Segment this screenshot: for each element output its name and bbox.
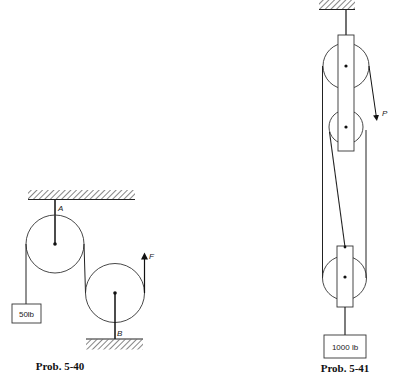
figure-prob-5-41: P 1000 lb Prob. 5-41 — [319, 0, 388, 374]
label-p: P — [382, 109, 388, 118]
weight-50lb-label: 50lb — [19, 310, 35, 319]
caption-prob-5-40: Prob. 5-40 — [36, 360, 85, 372]
caption-prob-5-41: Prob. 5-41 — [321, 362, 370, 374]
lower-pulley-axle — [343, 275, 346, 278]
figure-prob-5-40: A B F 50lb Prob. 5-40 — [12, 190, 155, 372]
ceiling-support — [28, 190, 135, 200]
floor-support — [86, 339, 143, 350]
upper-pulley-small-axle — [344, 125, 347, 128]
label-a: A — [57, 204, 63, 213]
rope-attachment-point — [344, 246, 347, 249]
upper-block — [338, 35, 354, 151]
rope-middle — [84, 244, 86, 293]
label-b: B — [117, 329, 123, 338]
force-p-arrow — [369, 66, 377, 118]
diagram-canvas: A B F 50lb Prob. 5-40 — [0, 0, 403, 377]
weight-50lb-box: 50lb — [12, 304, 41, 323]
pulley-a-axle — [53, 242, 57, 246]
upper-pulley-large-axle — [344, 64, 347, 67]
ceiling-support — [319, 0, 355, 10]
weight-1000lb-label: 1000 lb — [332, 343, 359, 352]
label-f: F — [149, 252, 155, 261]
weight-1000lb-box: 1000 lb — [324, 335, 366, 358]
